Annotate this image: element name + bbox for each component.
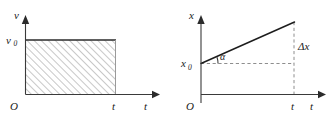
initial-velocity-label: v	[6, 34, 11, 46]
time-tick-label: t	[291, 100, 295, 112]
initial-position-label: x	[180, 57, 186, 69]
time-axis-name-label: t	[310, 100, 314, 112]
position-time-graph-panel: x x 0 α Δx O t t	[166, 0, 332, 131]
velocity-time-graph-panel: v v 0 O t t	[0, 0, 166, 131]
time-axis-arrow-icon	[152, 91, 160, 98]
shaded-area-under-curve	[26, 40, 116, 95]
position-time-line	[201, 22, 295, 64]
position-axis-arrow-icon	[197, 15, 204, 24]
angle-arc	[217, 57, 218, 63]
position-axis-label: x	[188, 9, 194, 21]
origin-label: O	[186, 100, 194, 112]
kinematics-figure-pair: v v 0 O t t x x 0 α Δx O t t	[0, 0, 332, 131]
delta-x-label: Δx	[297, 40, 309, 52]
time-axis-name-label: t	[144, 100, 148, 112]
time-tick-label: t	[112, 100, 116, 112]
origin-label: O	[10, 100, 18, 112]
velocity-axis-arrow-icon	[22, 15, 29, 24]
velocity-axis-label: v	[14, 9, 19, 21]
initial-velocity-subscript: 0	[14, 39, 18, 48]
time-axis-arrow-icon	[318, 91, 326, 98]
initial-position-subscript: 0	[188, 63, 192, 72]
angle-alpha-label: α	[220, 51, 226, 62]
position-time-svg: x x 0 α Δx O t t	[166, 0, 332, 131]
velocity-time-svg: v v 0 O t t	[0, 0, 166, 131]
